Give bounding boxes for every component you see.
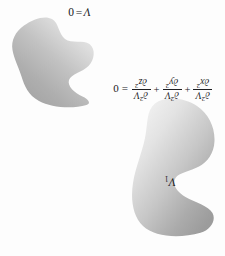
- label-v-one: V1: [165, 176, 176, 188]
- laplace-equation: ∂2V ∂x2 + ∂2V ∂y2 + ∂2V ∂z2 = 0: [113, 77, 213, 101]
- equation-equals-sign: =: [122, 83, 131, 95]
- label-v-zero-value: 0: [68, 6, 74, 18]
- label-v-one-variable: V: [169, 176, 176, 188]
- kidney-conductor-blob: [129, 97, 221, 239]
- equation-term-y: ∂2V ∂y2: [163, 77, 182, 101]
- equation-term-z: ∂2V ∂z2: [132, 77, 151, 101]
- equation-term-z-denominator: ∂z2: [133, 77, 150, 89]
- equation-term-y-denominator: ∂y2: [163, 77, 180, 89]
- equation-operator-2: +: [151, 84, 162, 95]
- figure-canvas: V1 ∂2V ∂x2 + ∂2V ∂y2 + ∂2V ∂z2 = 0: [0, 0, 225, 256]
- equation-term-x: ∂2V ∂x2: [193, 77, 212, 101]
- label-v-zero-equals: =: [74, 6, 84, 18]
- equation-term-x-numerator: ∂2V: [193, 90, 212, 101]
- label-v-one-subscript: 1: [165, 174, 169, 183]
- equation-term-y-numerator: ∂2V: [163, 90, 182, 101]
- wavy-boundary-blob: [7, 6, 99, 110]
- equation-term-z-numerator: ∂2V: [132, 90, 151, 101]
- label-v-zero: V=0: [68, 6, 91, 18]
- equation-term-x-denominator: ∂x2: [194, 77, 211, 89]
- equation-right-hand-side: 0: [113, 83, 122, 95]
- equation-operator-1: +: [182, 84, 193, 95]
- label-v-zero-variable: V: [84, 6, 91, 18]
